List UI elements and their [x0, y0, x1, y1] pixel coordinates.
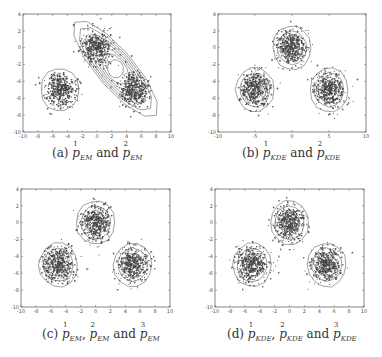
caption-label: (d) — [227, 327, 248, 341]
svg-text:-8: -8 — [208, 287, 213, 293]
svg-text:2: 2 — [210, 203, 213, 209]
caption-joiner: , — [272, 327, 280, 341]
svg-text:-6: -6 — [208, 270, 213, 276]
svg-text:-2: -2 — [208, 236, 213, 242]
axes-box — [215, 189, 364, 307]
svg-text:-4: -4 — [257, 308, 262, 314]
caption-joiner: and — [303, 327, 333, 341]
caption-term: p1KDE — [248, 327, 272, 343]
svg-text:2: 2 — [303, 308, 306, 314]
caption-d: (d) p1KDE, p2KDE and p3KDE — [227, 327, 357, 343]
caption-term: p3KDE — [333, 327, 357, 343]
svg-text:-8: -8 — [227, 308, 232, 314]
caption-term: p2KDE — [279, 327, 303, 343]
svg-text:0: 0 — [210, 219, 213, 225]
scatter-plot-d: -10-8-6-4-20246810-10-8-6-4-2024 — [0, 0, 382, 357]
data-points — [229, 197, 353, 290]
svg-text:4: 4 — [318, 308, 321, 314]
svg-text:8: 8 — [348, 308, 351, 314]
svg-text:-10: -10 — [205, 304, 213, 310]
contour-lines — [233, 201, 346, 288]
svg-text:-4: -4 — [208, 253, 213, 259]
svg-text:-2: -2 — [272, 308, 277, 314]
svg-text:4: 4 — [210, 186, 213, 192]
axis-ticks: -10-8-6-4-20246810-10-8-6-4-2024 — [205, 186, 367, 314]
svg-text:6: 6 — [333, 308, 336, 314]
svg-text:-6: -6 — [242, 308, 247, 314]
svg-text:0: 0 — [288, 308, 291, 314]
svg-text:10: 10 — [361, 308, 367, 314]
